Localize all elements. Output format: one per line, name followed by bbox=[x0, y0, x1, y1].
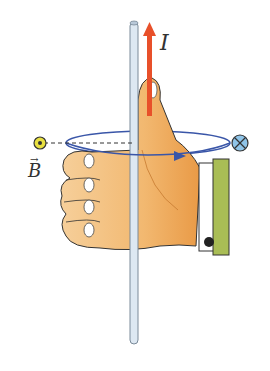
into-page-symbol-icon bbox=[232, 135, 248, 151]
out-of-page-symbol-icon bbox=[34, 137, 46, 149]
sleeve-cuff bbox=[199, 159, 229, 255]
field-label: → B bbox=[28, 160, 41, 181]
current-label: I bbox=[160, 30, 169, 55]
vector-arrow-mark: → bbox=[30, 154, 38, 165]
diagram-canvas bbox=[0, 0, 270, 371]
wire bbox=[130, 22, 138, 344]
right-hand-rule-diagram: I → B bbox=[0, 0, 270, 371]
